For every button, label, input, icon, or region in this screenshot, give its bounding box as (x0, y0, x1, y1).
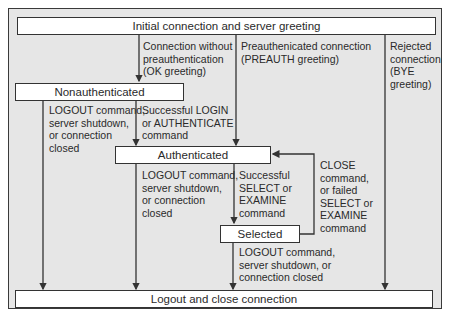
label-selected-logout: LOGOUT command, server shutdown, or conn… (239, 246, 335, 284)
label-login: Successful LOGIN or AUTHENTICATE command (142, 104, 233, 142)
label-auth-logout: LOGOUT command, server shutdown, or conn… (142, 169, 238, 219)
label-nonauth-logout: LOGOUT command, server shutdown, or conn… (49, 104, 145, 154)
state-logout: Logout and close connection (15, 290, 433, 308)
label-no-preauth: Connection without preauthentication (OK… (143, 40, 232, 78)
label-preauth: Preauthenicated connection (PREAUTH gree… (241, 40, 371, 65)
label-rejected: Rejected connection (BYE greeting) (390, 40, 441, 90)
state-selected: Selected (220, 225, 300, 243)
label-select: Successful SELECT or EXAMINE command (239, 169, 292, 219)
label-close: CLOSE command, or failed SELECT or EXAMI… (320, 159, 373, 234)
state-initial: Initial connection and server greeting (17, 17, 436, 35)
state-nonauthenticated: Nonauthenticated (15, 83, 184, 101)
